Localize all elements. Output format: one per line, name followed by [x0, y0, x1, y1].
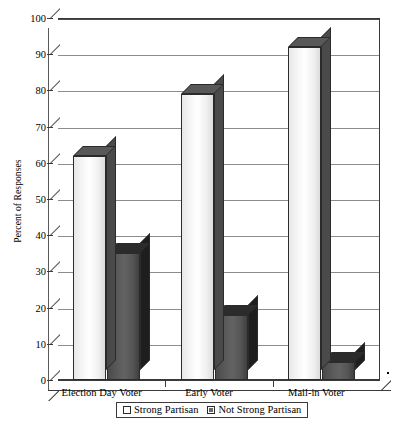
y-tick-label-90: 90	[0, 49, 46, 60]
bar-front-face	[288, 47, 321, 380]
y-tick-diagonal-100	[50, 8, 60, 18]
y-tick-mark-80	[47, 90, 53, 91]
y-tick-mark-50	[47, 199, 53, 200]
x-category-label-3: Mail-in Voter	[263, 387, 370, 398]
y-tick-diagonal-0	[50, 370, 60, 380]
bar-side-face	[106, 136, 116, 370]
bar-strong-partisan-2	[181, 84, 214, 380]
gridline-100	[58, 19, 379, 20]
legend-item-not-strong-partisan: Not Strong Partisan	[207, 404, 301, 415]
bar-side-face	[214, 74, 224, 370]
y-tick-diagonal-40	[50, 225, 60, 235]
y-tick-mark-0	[47, 380, 53, 381]
y-tick-mark-10	[47, 344, 53, 345]
bar-chart: Percent of Responses 0102030405060708090…	[0, 0, 396, 438]
y-tick-mark-60	[47, 163, 53, 164]
legend-label-strong-partisan: Strong Partisan	[134, 404, 198, 415]
y-tick-mark-30	[47, 271, 53, 272]
y-tick-diagonal-50	[50, 189, 60, 199]
y-tick-mark-100	[47, 18, 53, 19]
y-tick-label-20: 20	[0, 302, 46, 313]
bar-strong-partisan-3	[288, 37, 321, 380]
y-tick-label-100: 100	[0, 13, 46, 24]
legend-label-not-strong-partisan: Not Strong Partisan	[218, 404, 301, 415]
y-tick-diagonal-60	[50, 153, 60, 163]
x-category-label-1: Election Day Voter	[48, 387, 155, 398]
corner-mark	[387, 372, 389, 374]
x-tick-mark-1	[165, 380, 166, 387]
y-tick-diagonal-30	[50, 261, 60, 271]
y-tick-label-80: 80	[0, 85, 46, 96]
y-tick-label-60: 60	[0, 157, 46, 168]
bar-side-face	[321, 27, 331, 370]
y-tick-diagonal-70	[50, 117, 60, 127]
y-tick-diagonal-90	[50, 44, 60, 54]
legend-item-strong-partisan: Strong Partisan	[123, 404, 198, 415]
y-tick-diagonal-10	[50, 334, 60, 344]
y-tick-diagonal-80	[50, 80, 60, 90]
y-tick-mark-70	[47, 127, 53, 128]
x-category-label-2: Early Voter	[155, 387, 262, 398]
chart-legend: Strong Partisan Not Strong Partisan	[116, 402, 308, 418]
bar-front-face	[322, 362, 355, 380]
bar-front-face	[181, 94, 214, 380]
legend-swatch-dark-icon	[207, 406, 215, 414]
y-tick-label-0: 0	[0, 375, 46, 386]
bar-side-face	[140, 233, 150, 370]
bar-strong-partisan-1	[73, 146, 106, 380]
bar-front-face	[73, 156, 106, 380]
y-tick-label-30: 30	[0, 266, 46, 277]
x-axis-line	[58, 380, 380, 381]
y-tick-diagonal-20	[50, 298, 60, 308]
y-tick-label-10: 10	[0, 338, 46, 349]
y-tick-label-50: 50	[0, 194, 46, 205]
y-tick-label-70: 70	[0, 121, 46, 132]
legend-swatch-light-icon	[123, 406, 131, 414]
y-tick-mark-90	[47, 54, 53, 55]
y-tick-mark-20	[47, 308, 53, 309]
y-tick-label-40: 40	[0, 230, 46, 241]
y-tick-mark-40	[47, 235, 53, 236]
x-tick-mark-2	[273, 380, 274, 387]
